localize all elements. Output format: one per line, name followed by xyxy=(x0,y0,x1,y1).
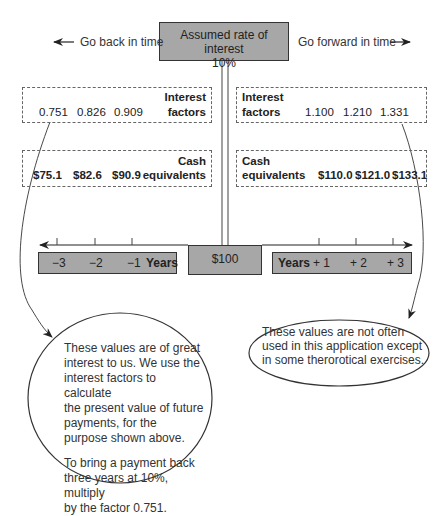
future-note-text: These values are not often used in this … xyxy=(262,325,432,367)
past-note-line: by the factor 0.751. xyxy=(64,501,204,516)
factor-plus-3: 1.331 xyxy=(380,106,409,118)
cash-plus-3: $133.1 xyxy=(392,169,427,181)
past-note-line: interest factors to calculate xyxy=(64,371,204,401)
rate-label: Assumed rate of interest xyxy=(160,28,288,56)
past-years-label: Years xyxy=(146,256,178,270)
past-cash-label-2: equivalents xyxy=(143,169,206,181)
past-interest-label-2: factors xyxy=(168,106,206,118)
future-years-label: Years xyxy=(278,256,310,270)
past-cash-label-1: Cash xyxy=(178,155,206,167)
factor-plus-1: 1.100 xyxy=(305,106,334,118)
past-note-line: These values are of great xyxy=(64,341,204,356)
go-forward-label: Go forward in time xyxy=(298,35,396,49)
past-cash-equivalents-box: Cash equivalents $75.1 $82.6 $90.9 xyxy=(22,150,212,187)
past-note-line: payments, for the xyxy=(64,416,204,431)
factor-minus-3: 0.751 xyxy=(39,106,68,118)
year-plus-3: + 3 xyxy=(387,256,404,270)
cash-minus-2: $82.6 xyxy=(73,169,102,181)
go-back-label: Go back in time xyxy=(80,35,163,49)
cash-plus-2: $121.0 xyxy=(355,169,390,181)
interest-rate-box: Assumed rate of interest 10% xyxy=(159,22,289,61)
past-note-line: interest to us. We use the xyxy=(64,356,204,371)
future-note-line: in some therorotical exercises. xyxy=(262,353,432,367)
future-cash-label-2: equivalents xyxy=(242,169,305,181)
present-value: $100 xyxy=(212,252,239,266)
future-interest-factors-box: Interest factors 1.100 1.210 1.331 xyxy=(236,87,427,123)
present-value-box: $100 xyxy=(188,245,262,275)
future-years-box: Years + 1 + 2 + 3 xyxy=(272,252,412,274)
past-interest-factors-box: Interest factors 0.751 0.826 0.909 xyxy=(22,87,212,123)
past-interest-label-1: Interest xyxy=(164,91,206,103)
future-note-line: used in this application except xyxy=(262,339,432,353)
future-cash-label-1: Cash xyxy=(242,155,270,167)
past-note-text: These values are of great interest to us… xyxy=(64,341,204,516)
past-note-line: the present value of future xyxy=(64,401,204,416)
past-note-line: three years at 10%, multiply xyxy=(64,471,204,501)
cash-plus-1: $110.0 xyxy=(318,169,353,181)
past-note-line: To bring a payment back xyxy=(64,456,204,471)
factor-plus-2: 1.210 xyxy=(343,106,372,118)
year-minus-3: −3 xyxy=(52,256,66,270)
year-plus-2: + 2 xyxy=(350,256,367,270)
factor-minus-1: 0.909 xyxy=(114,106,143,118)
rate-value: 10% xyxy=(160,56,288,70)
year-minus-1: −1 xyxy=(127,256,141,270)
future-interest-label-2: factors xyxy=(242,106,280,118)
cash-minus-1: $90.9 xyxy=(112,169,141,181)
factor-minus-2: 0.826 xyxy=(77,106,106,118)
future-cash-equivalents-box: Cash equivalents $110.0 $121.0 $133.1 xyxy=(236,150,427,187)
past-years-box: −3 −2 −1 Years xyxy=(38,252,177,274)
future-note-line: These values are not often xyxy=(262,325,432,339)
cash-minus-3: $75.1 xyxy=(33,169,62,181)
year-minus-2: −2 xyxy=(89,256,103,270)
year-plus-1: + 1 xyxy=(313,256,330,270)
past-note-line: purpose shown above. xyxy=(64,431,204,446)
future-interest-label-1: Interest xyxy=(242,91,284,103)
